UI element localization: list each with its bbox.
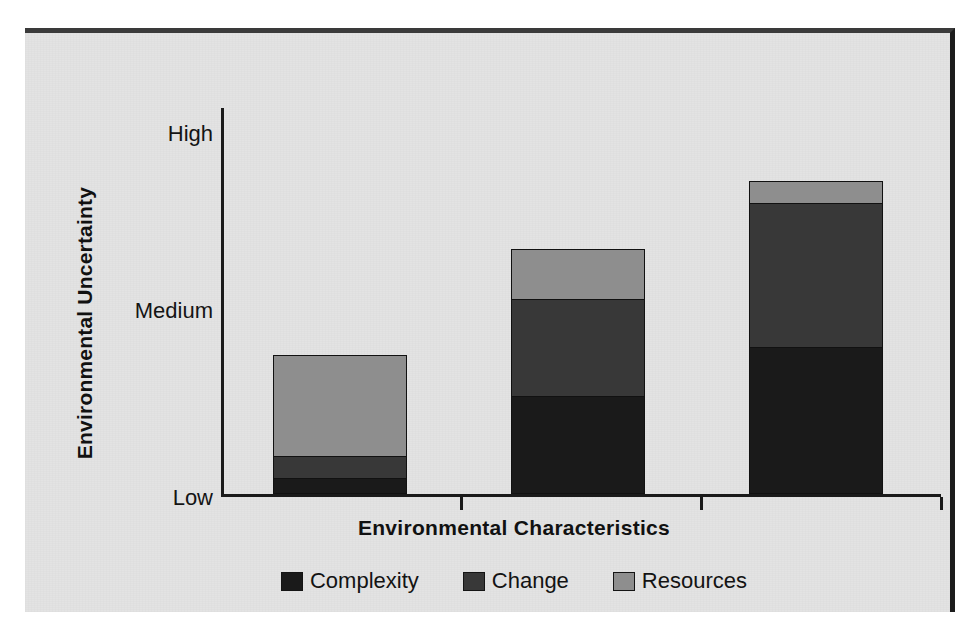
bar-moderate-uncertainty bbox=[511, 249, 645, 494]
y-axis-tick-labels: HighMediumLow bbox=[25, 108, 213, 500]
y-tick-label-low: Low bbox=[173, 485, 213, 511]
y-tick-label-medium: Medium bbox=[135, 298, 213, 324]
bar-segment-complexity bbox=[273, 478, 407, 494]
bar-segment-change bbox=[749, 203, 883, 347]
bar-segment-change bbox=[273, 456, 407, 478]
y-axis-line bbox=[221, 108, 224, 497]
legend-swatch-resources bbox=[613, 572, 635, 591]
legend-label-complexity: Complexity bbox=[310, 568, 419, 594]
legend-label-resources: Resources bbox=[642, 568, 747, 594]
legend-swatch-complexity bbox=[281, 572, 303, 591]
bar-low-uncertainty bbox=[273, 355, 407, 494]
bar-segment-complexity bbox=[511, 396, 645, 494]
plot-area bbox=[221, 108, 941, 497]
x-axis-tick-0 bbox=[460, 497, 463, 510]
legend-item-change[interactable]: Change bbox=[463, 568, 569, 594]
bar-segment-complexity bbox=[749, 347, 883, 494]
bar-segment-resources bbox=[749, 181, 883, 203]
bar-segment-resources bbox=[511, 249, 645, 299]
chart-legend: ComplexityChangeResources bbox=[25, 568, 978, 594]
bar-high-uncertainty bbox=[749, 181, 883, 494]
figure-panel: Environmental Uncertainty HighMediumLow … bbox=[25, 28, 955, 612]
bar-segment-resources bbox=[273, 355, 407, 456]
x-axis-title: Environmental Characteristics bbox=[25, 516, 978, 540]
legend-label-change: Change bbox=[492, 568, 569, 594]
legend-swatch-change bbox=[463, 572, 485, 591]
x-axis-line bbox=[221, 494, 941, 497]
legend-item-resources[interactable]: Resources bbox=[613, 568, 747, 594]
y-tick-label-high: High bbox=[168, 121, 213, 147]
x-axis-tick-2 bbox=[940, 497, 943, 510]
bar-segment-change bbox=[511, 299, 645, 396]
legend-item-complexity[interactable]: Complexity bbox=[281, 568, 419, 594]
x-axis-tick-1 bbox=[700, 497, 703, 510]
